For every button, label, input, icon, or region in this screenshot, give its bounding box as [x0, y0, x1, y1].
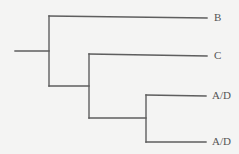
branch-b	[49, 16, 207, 18]
leaf-label-ad-1: A/D	[212, 90, 231, 101]
branch-ad-1	[146, 95, 206, 96]
cladogram	[0, 0, 239, 154]
leaf-label-c: C	[214, 50, 221, 61]
branch-c	[89, 54, 207, 56]
leaf-label-ad-2: A/D	[212, 136, 231, 147]
leaf-label-b: B	[214, 12, 221, 23]
